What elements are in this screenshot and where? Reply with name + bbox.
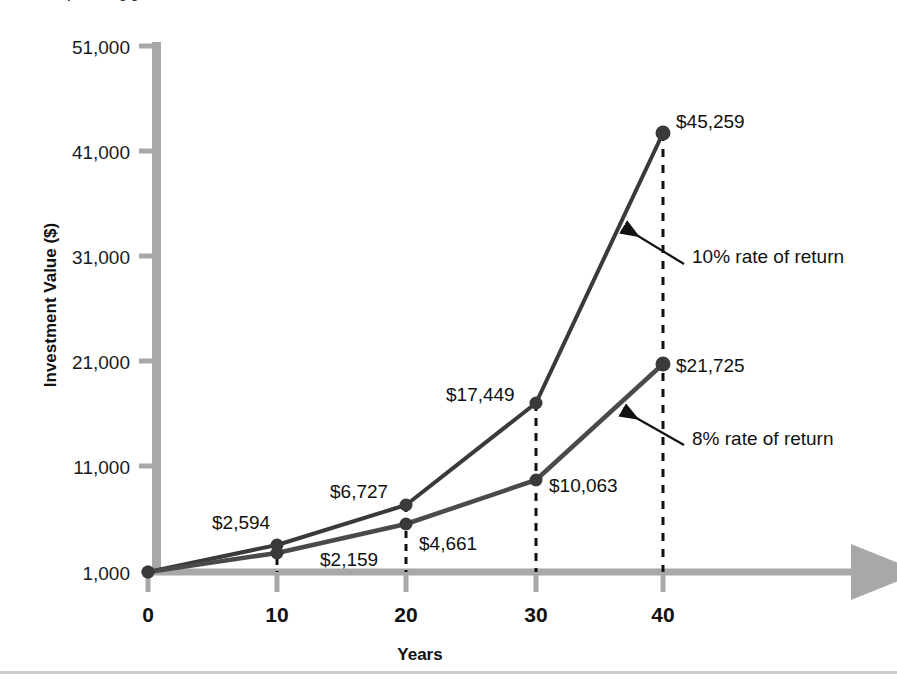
y-axis-tick-label-41000: 41,000 bbox=[72, 142, 130, 163]
annotation-8-percent: 8% rate of return bbox=[624, 411, 834, 449]
y-axis bbox=[139, 42, 161, 574]
data-label-10y-8pct: $2,159 bbox=[320, 549, 378, 570]
data-point bbox=[656, 357, 671, 372]
y-axis-tick-label-1000: 1,000 bbox=[82, 563, 130, 584]
data-point bbox=[530, 397, 543, 410]
annotation-leader-10-percent bbox=[625, 228, 684, 264]
data-point bbox=[400, 518, 413, 531]
data-label-40y-10pct: $45,259 bbox=[676, 111, 745, 132]
x-axis-title: Years bbox=[397, 645, 442, 664]
data-point bbox=[656, 126, 671, 141]
y-axis-tick-label-21000: 21,000 bbox=[72, 352, 130, 373]
series-8-percent-path bbox=[148, 364, 663, 572]
data-label-30y-8pct: $10,063 bbox=[549, 475, 618, 496]
x-axis-tick-label-0: 0 bbox=[142, 603, 154, 626]
x-axis-tick-label-30: 30 bbox=[524, 603, 547, 626]
data-point bbox=[530, 474, 543, 487]
data-point bbox=[271, 547, 284, 560]
y-axis-bar bbox=[152, 42, 161, 574]
annotation-leader-8-percent bbox=[624, 411, 684, 445]
x-axis-tick-label-40: 40 bbox=[651, 603, 674, 626]
data-point bbox=[142, 566, 155, 579]
y-axis-tick-label-11000: 11,000 bbox=[73, 457, 130, 478]
data-label-20y-10pct: $6,727 bbox=[330, 481, 388, 502]
drop-lines bbox=[277, 133, 663, 572]
compound-interest-chart: compounding growth bbox=[0, 0, 897, 684]
y-axis-tick-label-51000: 51,000 bbox=[72, 37, 130, 58]
bottom-divider bbox=[0, 671, 897, 674]
data-label-20y-8pct: $4,661 bbox=[419, 533, 477, 554]
y-axis-title: Investment Value ($) bbox=[41, 223, 60, 387]
x-axis-tick-label-10: 10 bbox=[265, 603, 288, 626]
data-point bbox=[400, 499, 413, 512]
data-label-40y-8pct: $21,725 bbox=[676, 355, 745, 376]
x-axis-tick-label-20: 20 bbox=[394, 603, 417, 626]
x-axis bbox=[148, 572, 858, 592]
chart-plot-area: 51,000 41,000 31,000 21,000 11,000 1,000… bbox=[0, 0, 897, 684]
y-axis-tick-label-31000: 31,000 bbox=[72, 247, 130, 268]
data-label-30y-10pct: $17,449 bbox=[446, 384, 515, 405]
series-line-10-percent bbox=[142, 126, 671, 579]
data-label-10y-10pct: $2,594 bbox=[212, 512, 271, 533]
annotation-label-8-percent: 8% rate of return bbox=[692, 428, 834, 449]
annotation-label-10-percent: 10% rate of return bbox=[692, 246, 844, 267]
annotation-10-percent: 10% rate of return bbox=[625, 228, 844, 267]
